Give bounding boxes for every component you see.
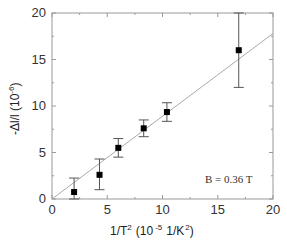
square-marker <box>71 189 77 195</box>
y-tick-label: 10 <box>32 98 46 113</box>
y-tick-label: 5 <box>39 145 46 160</box>
x-axis-label-unit: (10 <box>136 224 154 238</box>
y-axis-label-end: ) <box>8 83 22 87</box>
data-point <box>234 13 244 87</box>
x-tick-label: 5 <box>104 202 111 217</box>
y-axis-label: -Δl/l (10-6) <box>7 83 22 135</box>
x-axis-label-sup: 2 <box>127 223 132 232</box>
x-tick-label: 0 <box>48 202 55 217</box>
data-point <box>162 103 172 122</box>
x-tick-label: 15 <box>211 202 225 217</box>
y-axis-label-main: -Δl/l (10 <box>8 93 22 135</box>
x-tick-labels: 05101520 <box>48 202 280 217</box>
axis-ticks <box>52 13 273 199</box>
x-axis-label-unit: 1/K <box>166 224 184 238</box>
x-axis-label-main: 1/T <box>110 224 128 238</box>
chart-canvas: 05101520 05101520 B = 0.36 T 1/T2(10-51/… <box>0 0 287 247</box>
square-marker <box>97 172 103 178</box>
square-marker <box>141 125 147 131</box>
field-annotation: B = 0.36 T <box>205 173 253 185</box>
square-marker <box>236 47 242 53</box>
y-tick-labels: 05101520 <box>32 5 46 206</box>
x-axis-label-sup: -5 <box>155 223 163 232</box>
data-point <box>69 178 79 199</box>
y-tick-label: 15 <box>32 52 46 67</box>
data-point <box>139 120 149 137</box>
plot-border <box>52 13 273 199</box>
y-tick-label: 0 <box>39 191 46 206</box>
data-points <box>69 13 244 199</box>
x-tick-label: 20 <box>266 202 280 217</box>
x-tick-label: 10 <box>155 202 169 217</box>
square-marker <box>115 145 121 151</box>
data-point <box>95 159 105 190</box>
data-point <box>113 139 123 158</box>
x-axis-label: 1/T2(10-51/K2) <box>110 223 194 238</box>
y-tick-label: 20 <box>32 5 46 20</box>
plot-frame <box>52 13 273 199</box>
x-axis-label-end: ) <box>190 224 194 238</box>
square-marker <box>164 109 170 115</box>
